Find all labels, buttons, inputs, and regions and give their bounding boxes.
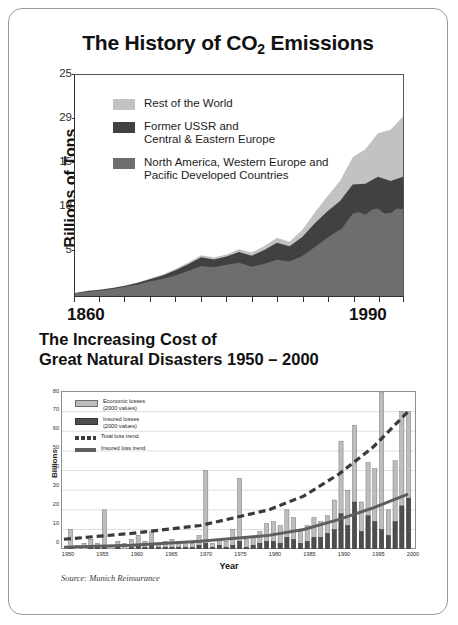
- legend-label-north-america: North America, Western Europe and Pacifi…: [144, 156, 329, 183]
- disaster-xtick-1995: 1995: [367, 551, 391, 557]
- co2-xtick: [175, 296, 176, 302]
- co2-ytick-15: 15: [42, 155, 72, 167]
- co2-chart-y-ticks: 25 29 15 10 5: [39, 74, 72, 296]
- disaster-chart-source: Source: Munich Reinsurance: [61, 573, 160, 583]
- co2-xtick: [403, 296, 404, 302]
- disaster-xtick-1970: 1970: [194, 551, 218, 557]
- disaster-xtick-1950: 1950: [56, 551, 80, 557]
- co2-xtick-label-1860: 1860: [67, 305, 105, 325]
- disaster-ytick-30: 30: [41, 482, 59, 488]
- co2-xtick: [226, 296, 227, 302]
- disaster-ytick-50: 50: [41, 444, 59, 450]
- co2-ytick-5: 5: [42, 243, 72, 255]
- disaster-chart-x-axis-label: Year: [9, 561, 449, 571]
- disaster-chart-title: The Increasing Cost of Great Natural Dis…: [39, 329, 429, 369]
- disaster-ytick-0: 0: [41, 539, 59, 545]
- co2-ytick-29: 29: [42, 111, 72, 123]
- co2-chart-title: The History of CO2 Emissions: [9, 31, 447, 55]
- legend-swatch-north-america: [113, 158, 135, 169]
- legend-item-north-america: North America, Western Europe and Pacifi…: [113, 156, 373, 183]
- legend-label-insured-losses: Insured losses (2000 values): [103, 416, 139, 430]
- co2-xtick: [328, 296, 329, 302]
- legend-label-insured-losses-line2: (2000 values): [103, 423, 137, 429]
- disaster-ytick-10: 10: [41, 520, 59, 526]
- legend-swatch-economic-losses: [75, 400, 98, 407]
- legend-label-economic-losses: Economic losses (2000 values): [103, 398, 145, 412]
- disaster-ytick-80: 80: [41, 388, 59, 394]
- legend-label-insured-loss-trend: Insured loss trend: [101, 445, 145, 452]
- co2-chart-legend: Rest of the World Former USSR and Centra…: [113, 97, 373, 192]
- legend-label-former-ussr-line1: Former USSR and: [144, 120, 239, 132]
- disaster-xtick-1985: 1985: [298, 551, 322, 557]
- legend-swatch-insured-loss-trend: [75, 448, 96, 452]
- disaster-xtick-1980: 1980: [263, 551, 287, 557]
- legend-item-former-ussr: Former USSR and Central & Eastern Europe: [113, 120, 373, 147]
- disaster-xtick-1990: 1990: [332, 551, 356, 557]
- co2-xtick-label-1990: 1990: [349, 305, 387, 325]
- legend-swatch-rest-of-the-world: [113, 99, 135, 110]
- disaster-xtick-1965: 1965: [160, 551, 184, 557]
- legend-label-rest-of-the-world: Rest of the World: [144, 97, 233, 111]
- legend-swatch-former-ussr: [113, 122, 135, 133]
- page-frame: The History of CO2 Emissions Billions of…: [8, 8, 448, 615]
- co2-chart-x-axis: [74, 296, 404, 305]
- legend-label-former-ussr-line2: Central & Eastern Europe: [144, 133, 275, 145]
- co2-xtick: [354, 296, 355, 302]
- co2-chart-title-subscript: 2: [257, 41, 265, 57]
- co2-xtick: [379, 296, 380, 302]
- co2-ytick-25: 25: [42, 67, 72, 79]
- legend-item-insured-losses: Insured losses (2000 values): [75, 416, 195, 430]
- disaster-chart-title-line2: Great Natural Disasters 1950 – 2000: [39, 350, 319, 368]
- co2-chart-title-tail: Emissions: [265, 31, 374, 54]
- disaster-chart-legend: Economic losses (2000 values) Insured lo…: [75, 398, 195, 456]
- legend-label-north-america-line1: North America, Western Europe and: [144, 156, 329, 168]
- legend-label-north-america-line2: Pacific Developed Countries: [144, 169, 288, 181]
- legend-item-total-loss-trend: Total loss trend: [75, 433, 195, 440]
- disaster-chart-title-line1: The Increasing Cost of: [39, 330, 217, 348]
- legend-item-economic-losses: Economic losses (2000 values): [75, 398, 195, 412]
- co2-xtick: [303, 296, 304, 302]
- co2-xtick: [74, 296, 75, 302]
- co2-xtick: [150, 296, 151, 302]
- co2-xtick: [99, 296, 100, 302]
- co2-ytick-10: 10: [42, 199, 72, 211]
- legend-label-economic-losses-line2: (2000 values): [103, 405, 137, 411]
- legend-label-economic-losses-line1: Economic losses: [103, 398, 145, 404]
- disaster-ytick-60: 60: [41, 425, 59, 431]
- disaster-xtick-1960: 1960: [125, 551, 149, 557]
- legend-item-insured-loss-trend: Insured loss trend: [75, 445, 195, 452]
- legend-item-rest-of-the-world: Rest of the World: [113, 97, 373, 111]
- disaster-xtick-1955: 1955: [91, 551, 115, 557]
- co2-xtick: [277, 296, 278, 302]
- disaster-chart-y-ticks: 80 70 60 50 40 30 20 10 0: [39, 385, 59, 555]
- disaster-ytick-40: 40: [41, 463, 59, 469]
- legend-swatch-total-loss-trend: [75, 436, 96, 440]
- disaster-xtick-2000: 2000: [401, 551, 425, 557]
- legend-label-total-loss-trend: Total loss trend: [101, 433, 139, 440]
- co2-xtick: [252, 296, 253, 302]
- legend-swatch-insured-losses: [75, 418, 98, 425]
- co2-xtick: [124, 296, 125, 302]
- disaster-ytick-20: 20: [41, 501, 59, 507]
- legend-label-former-ussr: Former USSR and Central & Eastern Europe: [144, 120, 275, 147]
- disaster-xtick-1975: 1975: [229, 551, 253, 557]
- co2-xtick: [201, 296, 202, 302]
- co2-chart-title-main: The History of CO: [82, 31, 257, 54]
- legend-label-insured-losses-line1: Insured losses: [103, 416, 139, 422]
- disaster-ytick-70: 70: [41, 406, 59, 412]
